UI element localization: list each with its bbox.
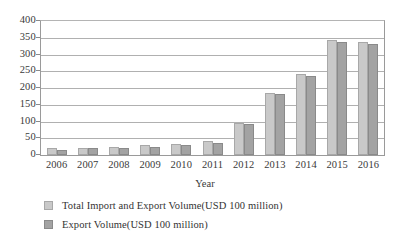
bar-2011-series1	[213, 143, 223, 155]
legend-item-total: Total Import and Export Volume(USD 100 m…	[44, 196, 283, 215]
y-axis-tick-label: 300	[0, 49, 36, 59]
bar-2011-series0	[203, 141, 213, 155]
bar-2008-series1	[119, 148, 129, 155]
bar-group	[358, 21, 378, 155]
bar-2016-series0	[358, 42, 368, 155]
bar-2007-series1	[88, 148, 98, 155]
y-axis-tick-mark	[36, 137, 40, 138]
bar-2007-series0	[78, 148, 88, 155]
y-axis-tick-label: 0	[0, 149, 36, 159]
y-axis-tick-label: 350	[0, 32, 36, 42]
y-axis-tick-label: 150	[0, 99, 36, 109]
legend-label-export: Export Volume(USD 100 million)	[62, 219, 208, 230]
bar-chart: 400350300250200150100500 200620072008200…	[0, 0, 410, 245]
gridline	[41, 155, 384, 156]
legend-swatch-export	[44, 220, 53, 229]
x-axis-title: Year	[0, 178, 410, 189]
bar-group	[203, 21, 223, 155]
y-axis-tick-mark	[36, 37, 40, 38]
x-axis-tick-label: 2016	[353, 159, 384, 170]
bar-2016-series1	[368, 44, 378, 155]
y-axis-tick-mark	[36, 20, 40, 21]
bar-2010-series1	[181, 145, 191, 155]
bar-group	[296, 21, 316, 155]
y-axis-tick-mark	[36, 154, 40, 155]
bar-group	[47, 21, 67, 155]
x-axis-tick-label: 2014	[290, 159, 321, 170]
y-axis-tick-mark	[36, 70, 40, 71]
y-axis-tick-mark	[36, 121, 40, 122]
bar-2014-series1	[306, 76, 316, 155]
y-axis-tick-label: 400	[0, 15, 36, 25]
bar-2014-series0	[296, 74, 306, 155]
bar-group	[109, 21, 129, 155]
bar-2006-series0	[47, 148, 57, 155]
x-axis-tick-label: 2007	[72, 159, 103, 170]
y-axis-tick-label: 250	[0, 65, 36, 75]
y-axis-tick-mark	[36, 54, 40, 55]
bar-group	[78, 21, 98, 155]
legend-label-total: Total Import and Export Volume(USD 100 m…	[62, 200, 283, 211]
bar-2009-series0	[140, 145, 150, 155]
y-axis-tick-label: 100	[0, 116, 36, 126]
x-axis-tick-label: 2011	[197, 159, 228, 170]
legend-swatch-total	[44, 201, 53, 210]
bar-2013-series1	[275, 94, 285, 155]
bars-layer	[41, 21, 384, 155]
bar-2010-series0	[171, 144, 181, 155]
x-axis-tick-label: 2012	[228, 159, 259, 170]
bar-2013-series0	[265, 93, 275, 155]
x-axis-tick-label: 2009	[135, 159, 166, 170]
bar-group	[234, 21, 254, 155]
y-axis-tick-mark	[36, 104, 40, 105]
y-axis-tick-label: 50	[0, 132, 36, 142]
bar-2008-series0	[109, 147, 119, 155]
x-axis-tick-label: 2008	[103, 159, 134, 170]
bar-2012-series0	[234, 123, 244, 155]
bar-2012-series1	[244, 124, 254, 155]
bar-group	[265, 21, 285, 155]
legend-item-export: Export Volume(USD 100 million)	[44, 215, 283, 234]
bar-group	[327, 21, 347, 155]
bar-2015-series0	[327, 40, 337, 155]
x-axis-tick-label: 2006	[41, 159, 72, 170]
x-axis-tick-label: 2010	[166, 159, 197, 170]
bar-2015-series1	[337, 42, 347, 155]
bar-2009-series1	[150, 147, 160, 155]
x-axis-tick-label: 2013	[259, 159, 290, 170]
y-axis-tick-mark	[36, 87, 40, 88]
bar-group	[140, 21, 160, 155]
y-axis-tick-label: 200	[0, 82, 36, 92]
x-axis-tick-label: 2015	[322, 159, 353, 170]
chart-legend: Total Import and Export Volume(USD 100 m…	[44, 196, 283, 234]
bar-group	[171, 21, 191, 155]
bar-2006-series1	[57, 150, 67, 155]
